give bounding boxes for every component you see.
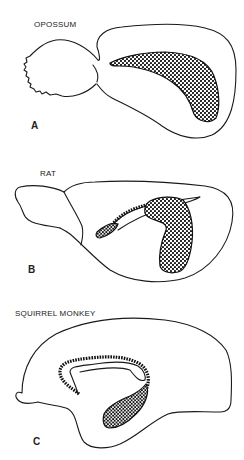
panel-c-squirrel-monkey-brain [16, 318, 232, 448]
brain-comparison-figure: OPOSSUM A RAT B SQUIRREL MONKEY C [0, 0, 244, 460]
panel-letter-c: C [33, 436, 40, 447]
panel-b-rat-brain [15, 181, 233, 282]
inner-loop-outline [70, 362, 145, 394]
panel-letter-b: B [28, 264, 35, 275]
stippled-region [103, 384, 147, 428]
stippled-tail [96, 223, 118, 238]
hemisphere-outline [60, 181, 233, 282]
panel-letter-a: A [31, 120, 38, 131]
brain-drawings [0, 0, 244, 460]
neck-outline [93, 65, 98, 82]
stippled-region [110, 52, 219, 121]
panel-a-opossum-brain [24, 24, 236, 138]
hemisphere-outline [16, 318, 232, 448]
species-label-squirrel-monkey: SQUIRREL MONKEY [15, 309, 96, 318]
olfactory-bulb-outline [24, 40, 98, 97]
species-label-rat: RAT [40, 169, 56, 178]
olfactory-bulb-outline [15, 186, 64, 228]
species-label-opossum: OPOSSUM [34, 20, 76, 29]
stippled-region [145, 197, 193, 273]
